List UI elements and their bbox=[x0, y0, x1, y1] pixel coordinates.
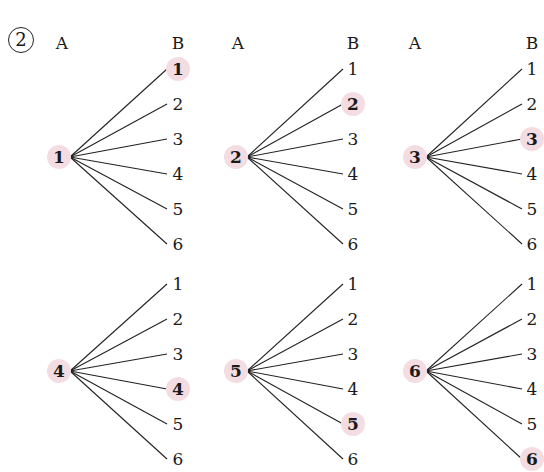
branch-line bbox=[426, 371, 522, 389]
branch-lines bbox=[0, 0, 544, 472]
branch-line bbox=[247, 104, 343, 157]
branch-line bbox=[70, 371, 167, 389]
branch-line bbox=[247, 284, 343, 371]
node-b: 5 bbox=[520, 414, 544, 434]
branch-line bbox=[247, 371, 343, 389]
node-b: 3 bbox=[520, 344, 544, 364]
branch-line bbox=[426, 371, 522, 424]
node-b: 4 bbox=[520, 164, 544, 184]
branch-line bbox=[247, 157, 343, 174]
node-b: 5 bbox=[341, 199, 365, 219]
node-b: 3 bbox=[166, 129, 190, 149]
branch-line bbox=[426, 157, 522, 244]
header-b-label: B bbox=[166, 33, 190, 53]
node-b: 6 bbox=[341, 234, 365, 254]
node-b: 3 bbox=[341, 344, 365, 364]
node-b: 2 bbox=[341, 94, 365, 114]
header-a-label: A bbox=[226, 33, 250, 53]
node-b: 1 bbox=[520, 274, 544, 294]
node-b: 6 bbox=[520, 234, 544, 254]
node-b: 5 bbox=[520, 199, 544, 219]
node-b: 4 bbox=[341, 379, 365, 399]
node-b: 1 bbox=[166, 59, 190, 79]
branch-line bbox=[70, 371, 167, 459]
node-b: 6 bbox=[166, 449, 190, 469]
branch-line bbox=[70, 157, 167, 244]
node-b: 4 bbox=[166, 164, 190, 184]
node-a: 1 bbox=[47, 147, 71, 167]
branch-line bbox=[70, 139, 167, 157]
node-b: 2 bbox=[520, 309, 544, 329]
branch-line bbox=[70, 354, 167, 371]
node-a: 3 bbox=[403, 147, 427, 167]
branch-line bbox=[247, 139, 343, 157]
branch-line bbox=[70, 371, 167, 424]
node-b: 2 bbox=[166, 94, 190, 114]
node-b: 2 bbox=[341, 309, 365, 329]
header-b-label: B bbox=[341, 33, 365, 53]
node-b: 1 bbox=[520, 59, 544, 79]
node-b: 3 bbox=[520, 129, 544, 149]
branch-line bbox=[70, 69, 167, 157]
node-b: 3 bbox=[166, 344, 190, 364]
node-b: 6 bbox=[166, 234, 190, 254]
node-a: 2 bbox=[224, 147, 248, 167]
header-b-label: B bbox=[520, 33, 544, 53]
branch-line bbox=[247, 371, 343, 459]
node-b: 5 bbox=[166, 199, 190, 219]
branch-line bbox=[247, 371, 343, 424]
node-a: 5 bbox=[224, 361, 248, 381]
branch-line bbox=[70, 284, 167, 371]
node-b: 2 bbox=[520, 94, 544, 114]
branch-line bbox=[426, 69, 522, 157]
tree-diagram: 2 ABABAB11234562123456312345641234565123… bbox=[0, 0, 544, 472]
node-b: 1 bbox=[166, 274, 190, 294]
node-b: 6 bbox=[520, 449, 544, 469]
node-a: 4 bbox=[47, 361, 71, 381]
node-b: 6 bbox=[341, 449, 365, 469]
branch-line bbox=[426, 139, 522, 157]
node-b: 2 bbox=[166, 309, 190, 329]
node-b: 1 bbox=[341, 59, 365, 79]
header-a-label: A bbox=[403, 33, 427, 53]
branch-line bbox=[70, 157, 167, 174]
node-b: 4 bbox=[520, 379, 544, 399]
node-b: 3 bbox=[341, 129, 365, 149]
branch-line bbox=[70, 104, 167, 157]
branch-line bbox=[426, 284, 522, 371]
node-a: 6 bbox=[403, 361, 427, 381]
branch-line bbox=[247, 157, 343, 244]
node-b: 1 bbox=[341, 274, 365, 294]
branch-line bbox=[426, 354, 522, 371]
node-b: 4 bbox=[166, 379, 190, 399]
header-a-label: A bbox=[50, 33, 74, 53]
branch-line bbox=[426, 157, 522, 174]
branch-line bbox=[247, 69, 343, 157]
node-b: 4 bbox=[341, 164, 365, 184]
node-b: 5 bbox=[341, 414, 365, 434]
branch-line bbox=[426, 371, 522, 459]
branch-line bbox=[426, 104, 522, 157]
problem-number: 2 bbox=[8, 27, 34, 53]
node-b: 5 bbox=[166, 414, 190, 434]
branch-line bbox=[247, 354, 343, 371]
